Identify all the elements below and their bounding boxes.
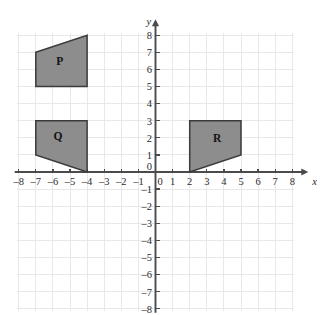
shape-label-p: P xyxy=(56,55,63,67)
x-axis-tick-label: 6 xyxy=(255,176,260,187)
shape-label-r: R xyxy=(213,132,222,144)
coordinate-plane-svg: –8–7–6–5–4–3–2–1012345678–8–7–6–5–4–3–2–… xyxy=(0,0,327,315)
x-axis-tick-label: –2 xyxy=(115,176,127,187)
x-axis-tick-label: –5 xyxy=(64,176,76,187)
y-axis-tick-label: –4 xyxy=(141,235,153,246)
y-axis-tick-label: –8 xyxy=(141,304,153,315)
x-axis-tick-label: 1 xyxy=(170,176,175,187)
x-axis-tick-label: –8 xyxy=(12,176,24,187)
y-axis-tick-label: –3 xyxy=(141,218,153,229)
x-axis-tick-label: –6 xyxy=(47,176,59,187)
shape-r xyxy=(190,121,241,172)
y-axis-tick-label: –6 xyxy=(141,269,153,280)
x-axis-tick-label: –4 xyxy=(81,176,93,187)
coordinate-plane-figure: –8–7–6–5–4–3–2–1012345678–8–7–6–5–4–3–2–… xyxy=(0,0,327,315)
x-axis-arrow-icon xyxy=(301,168,308,175)
shape-q xyxy=(36,121,87,172)
y-axis-tick-label: 4 xyxy=(147,98,153,109)
x-axis-tick-label: 4 xyxy=(221,176,227,187)
y-axis-tick-label: 8 xyxy=(147,30,152,41)
y-axis-tick-label: 7 xyxy=(147,47,152,58)
x-axis-tick-label: 0 xyxy=(157,176,162,187)
y-axis-tick-label: –2 xyxy=(141,201,153,212)
x-axis-tick-label: 3 xyxy=(204,176,209,187)
y-axis-tick-label: –7 xyxy=(141,287,153,298)
x-axis-tick-label: 2 xyxy=(187,176,192,187)
y-axis-tick-label: 6 xyxy=(147,64,152,75)
y-axis-tick-label: 5 xyxy=(147,81,152,92)
y-axis-tick-label: –5 xyxy=(141,252,153,263)
y-axis-name: y xyxy=(146,16,152,27)
x-axis-tick-label: 5 xyxy=(238,176,243,187)
y-axis-tick-label: 2 xyxy=(147,133,152,144)
x-axis-tick-label: –7 xyxy=(30,176,42,187)
x-axis-tick-label: 8 xyxy=(290,176,295,187)
y-axis-arrow-icon xyxy=(152,19,159,26)
shape-label-q: Q xyxy=(54,130,63,142)
origin-label: 0 xyxy=(147,161,152,172)
y-axis-tick-label: –1 xyxy=(141,184,153,195)
x-axis-tick-label: –3 xyxy=(98,176,110,187)
x-axis-tick-label: 7 xyxy=(273,176,278,187)
axis-names: xy xyxy=(146,16,318,187)
x-axis-name: x xyxy=(311,176,317,187)
y-axis-tick-label: 1 xyxy=(147,150,152,161)
y-axis-tick-label: 3 xyxy=(147,116,152,127)
